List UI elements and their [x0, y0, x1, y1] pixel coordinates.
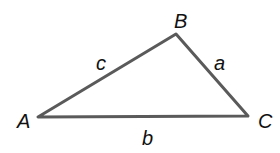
side-label-b: b	[142, 127, 153, 149]
triangle-diagram: A B C c a b	[0, 0, 280, 153]
vertex-label-b: B	[174, 10, 187, 32]
side-label-c: c	[96, 52, 106, 74]
vertex-label-a: A	[16, 110, 30, 132]
side-label-a: a	[214, 52, 225, 74]
triangle-svg: A B C c a b	[0, 0, 280, 153]
triangle-abc	[38, 34, 248, 117]
vertex-label-c: C	[258, 110, 273, 132]
